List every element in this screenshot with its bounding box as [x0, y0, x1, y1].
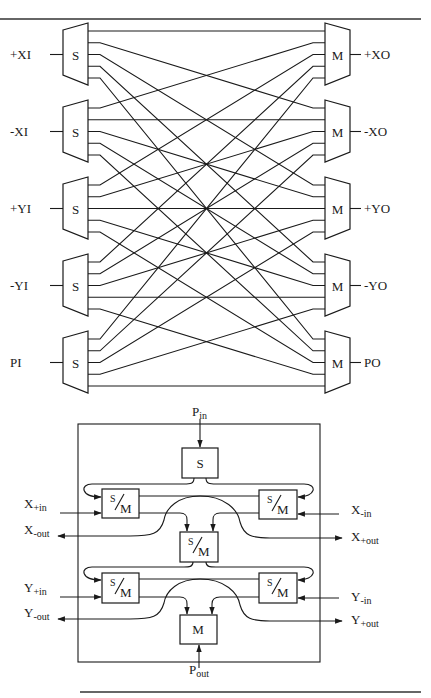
- split-unit-label: S: [72, 48, 79, 63]
- x-right-to-center-path: [213, 513, 259, 531]
- merge-unit-label: M: [332, 125, 344, 140]
- merge-unit-label: M: [332, 202, 344, 217]
- merge-unit-label: M: [332, 279, 344, 294]
- output-label: +XO: [364, 47, 390, 62]
- input-label: +YI: [10, 201, 31, 216]
- x-plus-in-label: X+in: [24, 496, 47, 513]
- router-diagram: Pin S S M S M X+in X-in X+out: [24, 404, 379, 679]
- crossbar-wire: [88, 43, 325, 108]
- split-unit-label: S: [72, 202, 79, 217]
- figure-canvas: S+XIM+XOS-XIM-XOS+YIM+YOS-YIM-YOSPIMPO P…: [0, 0, 431, 698]
- x-right-to-x-minus-out-path: [58, 496, 259, 536]
- x-minus-in-label: X-in: [351, 502, 372, 519]
- output-label: -XO: [364, 124, 387, 139]
- x-plus-out-label: X+out: [351, 529, 379, 546]
- y-left-to-y-plus-out-path: [139, 579, 342, 621]
- m-unit-label: M: [192, 622, 204, 637]
- crossbar-wire: [88, 155, 325, 351]
- svg-text:M: M: [120, 501, 132, 516]
- y-right-to-y-minus-out-path: [58, 579, 259, 619]
- svg-text:M: M: [277, 502, 289, 517]
- y-plus-out-label: Y+out: [351, 612, 379, 629]
- output-label: PO: [364, 355, 381, 370]
- input-label: +XI: [10, 47, 31, 62]
- y-plus-in-label: Y+in: [24, 580, 47, 597]
- output-label: -YO: [364, 278, 387, 293]
- s-unit-label: S: [196, 456, 203, 471]
- input-label: -XI: [10, 124, 28, 139]
- y-minus-in-label: Y-in: [351, 589, 372, 606]
- crossbar-wire: [88, 66, 325, 262]
- svg-text:S: S: [267, 577, 273, 588]
- crossbar-wire: [88, 309, 325, 374]
- x-left-to-x-plus-out-path: [139, 496, 342, 538]
- p-in-label: Pin: [192, 404, 207, 421]
- x-minus-out-label: X-out: [24, 522, 50, 539]
- svg-text:M: M: [277, 585, 289, 600]
- output-label: +YO: [364, 201, 390, 216]
- split-unit-label: S: [72, 356, 79, 371]
- svg-text:S: S: [188, 536, 194, 547]
- crossbar-diagram: S+XIM+XOS-XIM-XOS+YIM+YOS-YIM-YOSPIMPO: [10, 23, 390, 393]
- split-unit-label: S: [72, 279, 79, 294]
- y-right-to-m-path: [212, 597, 259, 614]
- svg-text:S: S: [267, 494, 273, 505]
- svg-text:S: S: [110, 577, 116, 588]
- input-label: PI: [10, 355, 22, 370]
- input-label: -YI: [10, 278, 28, 293]
- split-unit-label: S: [72, 125, 79, 140]
- merge-unit-label: M: [332, 356, 344, 371]
- svg-text:M: M: [198, 544, 210, 559]
- y-minus-out-label: Y-out: [24, 605, 50, 622]
- merge-unit-label: M: [332, 48, 344, 63]
- svg-text:S: S: [110, 493, 116, 504]
- svg-text:M: M: [120, 585, 132, 600]
